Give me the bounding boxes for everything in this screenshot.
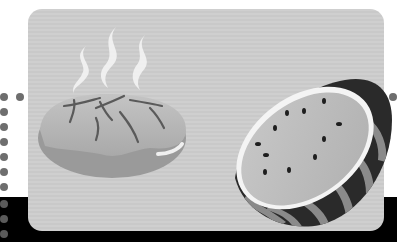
seed	[285, 110, 289, 116]
seed	[263, 153, 269, 157]
seed	[322, 98, 326, 104]
bread-loaf	[38, 94, 186, 178]
illustration	[0, 0, 397, 242]
seed	[273, 125, 277, 131]
seed	[313, 154, 317, 160]
steam-wisp	[101, 27, 117, 88]
seed	[287, 167, 291, 173]
seed	[336, 122, 342, 126]
seed	[263, 169, 267, 175]
watermelon-half	[213, 61, 397, 234]
steam-wisp	[73, 46, 89, 94]
steam	[73, 27, 147, 94]
seed	[302, 108, 306, 114]
steam-wisp	[133, 35, 147, 90]
seed	[322, 136, 326, 142]
seed	[255, 142, 261, 146]
